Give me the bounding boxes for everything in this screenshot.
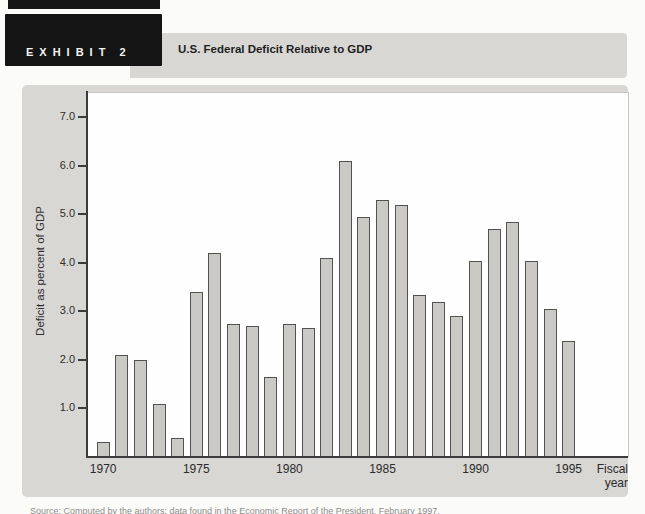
- y-tick-label-3.0: 3.0: [42, 304, 75, 316]
- bar-1979: [264, 377, 277, 457]
- exhibit-label: EXHIBIT: [26, 46, 111, 58]
- bar-1977: [227, 324, 240, 457]
- y-axis-line: [86, 91, 88, 458]
- book-page: EXHIBIT 2 U.S. Federal Deficit Relative …: [0, 0, 645, 514]
- exhibit-number: 2: [119, 46, 125, 58]
- bar-1989: [450, 316, 463, 457]
- x-axis-title: Fiscal year: [585, 462, 628, 490]
- y-tick-6.0: [78, 165, 86, 167]
- chart-title: U.S. Federal Deficit Relative to GDP: [178, 43, 372, 55]
- bar-1975: [190, 292, 203, 457]
- bar-1976: [208, 253, 221, 457]
- bar-1985: [376, 200, 389, 457]
- y-tick-7.0: [78, 116, 86, 118]
- x-tick-label-1975: 1975: [174, 462, 218, 476]
- x-tick-label-1990: 1990: [454, 462, 498, 476]
- bar-1971: [115, 355, 128, 457]
- bar-1982: [320, 258, 333, 457]
- y-tick-4.0: [78, 262, 86, 264]
- y-tick-label-7.0: 7.0: [42, 110, 75, 122]
- bar-1991: [488, 229, 501, 457]
- y-tick-label-4.0: 4.0: [42, 256, 75, 268]
- x-tick-label-1980: 1980: [267, 462, 311, 476]
- y-tick-3.0: [78, 310, 86, 312]
- y-tick-1.0: [78, 407, 86, 409]
- x-tick-label-1995: 1995: [547, 462, 591, 476]
- x-tick-label-1970: 1970: [81, 462, 125, 476]
- y-tick-label-1.0: 1.0: [42, 401, 75, 413]
- y-tick-label-6.0: 6.0: [42, 159, 75, 171]
- x-axis-line: [86, 456, 628, 458]
- bar-1993: [525, 261, 538, 457]
- y-tick-label-2.0: 2.0: [42, 353, 75, 365]
- source-line: Source: Computed by the authors; data fo…: [30, 506, 440, 514]
- y-tick-label-5.0: 5.0: [42, 207, 75, 219]
- y-tick-2.0: [78, 359, 86, 361]
- bar-1988: [432, 302, 445, 457]
- exhibit-tab: EXHIBIT 2: [5, 14, 162, 66]
- bar-1973: [153, 404, 166, 457]
- bar-1980: [283, 324, 296, 457]
- bar-1970: [97, 442, 110, 457]
- bar-1995: [562, 341, 575, 457]
- x-tick-label-1985: 1985: [361, 462, 405, 476]
- plot-area: [88, 92, 629, 457]
- y-tick-5.0: [78, 213, 86, 215]
- bar-1990: [469, 261, 482, 457]
- bar-1992: [506, 222, 519, 457]
- bar-1972: [134, 360, 147, 457]
- bar-1981: [302, 328, 315, 457]
- top-black-strip: [8, 0, 160, 9]
- bar-1978: [246, 326, 259, 457]
- bar-1994: [544, 309, 557, 457]
- chart-title-bar: U.S. Federal Deficit Relative to GDP: [130, 33, 627, 78]
- bar-1987: [413, 295, 426, 457]
- bar-1974: [171, 438, 184, 457]
- bar-1984: [357, 217, 370, 457]
- bar-1983: [339, 161, 352, 457]
- bar-1986: [395, 205, 408, 457]
